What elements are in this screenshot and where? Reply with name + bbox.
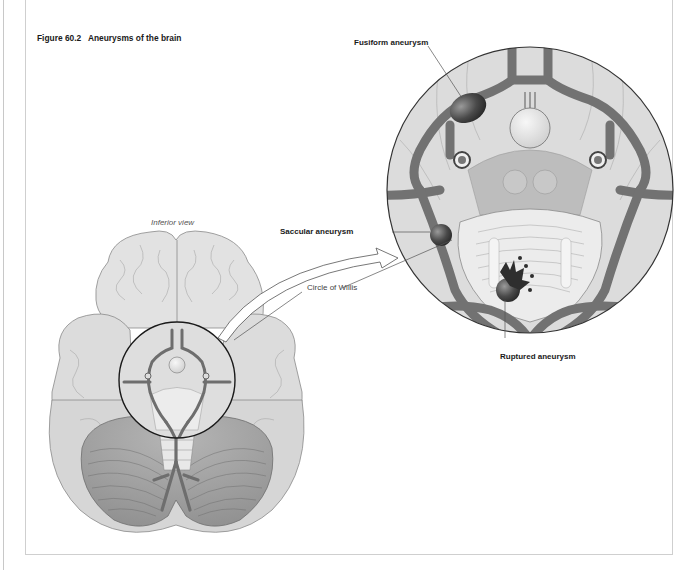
saccular-aneurysm [430,224,452,246]
label-ruptured-aneurysm: Ruptured aneurysm [500,352,576,361]
label-saccular-aneurysm: Saccular aneurysm [280,227,353,236]
label-circle-of-willis: Circle of Willis [307,283,357,292]
brain-inferior-view [49,231,304,532]
magnified-inset [380,40,680,340]
label-fusiform-aneurysm: Fusiform aneurysm [354,38,428,47]
label-inferior-view: Inferior view [151,218,194,227]
